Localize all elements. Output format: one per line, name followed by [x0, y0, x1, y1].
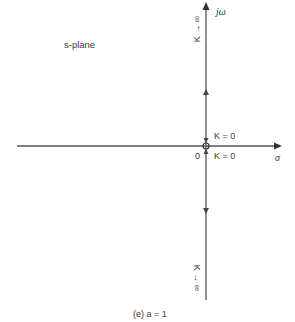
real-axis-label: σ — [275, 152, 280, 163]
real-axis-arrow-icon — [274, 143, 282, 150]
k-infinity-top-label: K → ∞ — [179, 24, 215, 34]
k-zero-lower-label: K = 0 — [214, 151, 235, 161]
locus-down-arrow-icon — [203, 208, 209, 214]
pole-arrow-up-icon — [204, 149, 209, 154]
k-zero-upper-label: K = 0 — [214, 131, 235, 141]
imag-axis-arrow-icon — [203, 2, 210, 10]
imag-axis-label: jω — [216, 6, 226, 17]
s-plane-label: s-plane — [64, 39, 95, 50]
origin-label: 0 — [195, 151, 200, 161]
k-infinity-bottom-label: K → ∞ — [179, 273, 215, 283]
pole-arrow-down-icon — [204, 138, 209, 143]
root-locus-plot — [0, 0, 295, 322]
locus-up-arrow-icon — [203, 89, 209, 95]
figure-caption: (e) a = 1 — [133, 309, 167, 319]
